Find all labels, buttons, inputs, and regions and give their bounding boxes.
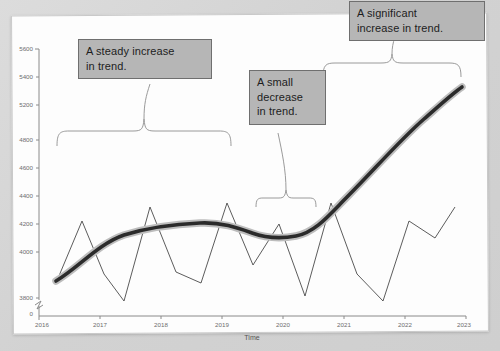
x-tick-label: 2020 — [276, 321, 290, 328]
x-tick-label: 2021 — [337, 321, 351, 328]
y-tick-label: 4400 — [19, 192, 33, 199]
y-tick-label: 5400 — [19, 73, 33, 80]
y-axis-zero-label: 0 — [30, 310, 34, 317]
annotation-brace-small-decrease — [256, 133, 316, 207]
y-tick-label: 4000 — [19, 248, 33, 255]
x-tick-label: 2022 — [398, 321, 412, 328]
y-tick-label: 5200 — [19, 101, 33, 108]
x-tick-label: 2016 — [35, 321, 49, 328]
y-tick-label: 4200 — [19, 220, 33, 227]
x-tick-group: 2016 2017 2018 2019 2020 2021 2022 2023 … — [35, 316, 471, 341]
x-axis-title: Time — [244, 334, 259, 341]
data-series-observed — [56, 203, 455, 301]
annotation-callout-significant-increase[interactable]: A significant increase in trend. — [349, 1, 485, 41]
y-tick-group: 5600 5400 5200 4800 4600 4400 4200 4000 … — [19, 45, 39, 317]
y-tick-label: 4600 — [19, 164, 33, 171]
page-background: 5600 5400 5200 4800 4600 4400 4200 4000 … — [0, 0, 500, 351]
annotation-callout-steady-increase[interactable]: A steady increase in trend. — [78, 39, 212, 79]
y-axis-break-icon — [35, 301, 43, 309]
x-tick-label: 2023 — [457, 321, 471, 328]
x-tick-label: 2019 — [215, 321, 229, 328]
line-chart: 5600 5400 5200 4800 4600 4400 4200 4000 … — [0, 0, 500, 351]
annotation-callout-small-decrease[interactable]: A small decrease in trend. — [249, 70, 326, 125]
y-tick-label: 4800 — [19, 136, 33, 143]
y-tick-label: 5600 — [19, 45, 33, 52]
x-tick-label: 2018 — [154, 321, 168, 328]
annotation-brace-steady-increase — [57, 84, 231, 146]
y-tick-label: 3800 — [19, 294, 33, 301]
x-tick-label: 2017 — [93, 321, 107, 328]
